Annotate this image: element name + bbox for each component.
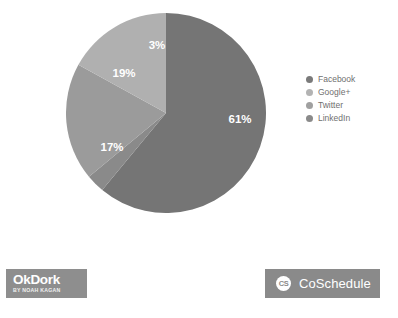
pie-value-label: 17% <box>100 141 123 153</box>
legend-item-googleplus[interactable]: Google+ <box>306 87 394 99</box>
legend-swatch-icon <box>306 76 313 83</box>
legend-swatch-icon <box>306 115 313 122</box>
okdork-logo[interactable]: OkDork BY NOAH KAGAN <box>6 269 87 298</box>
legend-label: Twitter <box>318 100 343 112</box>
chart-legend: Facebook Google+ Twitter LinkedIn <box>306 74 394 126</box>
pie-chart: 61%3%19%17% <box>66 13 266 213</box>
coschedule-wordmark: CoSchedule <box>299 276 371 291</box>
legend-label: LinkedIn <box>318 113 350 125</box>
legend-item-linkedin[interactable]: LinkedIn <box>306 113 394 125</box>
coschedule-logo[interactable]: CS CoSchedule <box>265 269 380 298</box>
legend-swatch-icon <box>306 89 313 96</box>
pie-value-label: 19% <box>112 67 135 79</box>
coschedule-badge-icon: CS <box>276 276 291 291</box>
legend-label: Google+ <box>318 87 350 99</box>
legend-item-twitter[interactable]: Twitter <box>306 100 394 112</box>
okdork-tagline: BY NOAH KAGAN <box>13 287 61 294</box>
legend-swatch-icon <box>306 102 313 109</box>
infographic-canvas: 61%3%19%17% Facebook Google+ Twitter Lin… <box>0 0 398 318</box>
legend-item-facebook[interactable]: Facebook <box>306 74 394 86</box>
pie-chart-svg: 61%3%19%17% <box>66 13 266 213</box>
legend-label: Facebook <box>318 74 355 86</box>
pie-value-label: 61% <box>228 113 251 125</box>
pie-value-label: 3% <box>149 39 166 51</box>
okdork-wordmark: OkDork <box>13 273 60 286</box>
